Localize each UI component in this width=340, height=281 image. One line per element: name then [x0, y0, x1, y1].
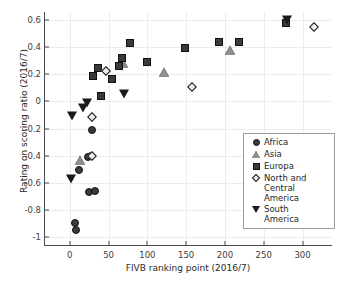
gridline-vertical — [70, 12, 71, 245]
legend-marker-square-icon — [248, 161, 264, 170]
data-point-circle — [91, 187, 99, 195]
y-tick-label: 0.4 — [27, 42, 45, 52]
data-point-diamond — [87, 112, 97, 122]
legend-item-label: North and Central America — [264, 173, 306, 203]
legend-item[interactable]: Asia — [248, 149, 331, 160]
gridline-horizontal — [45, 237, 332, 238]
gridline-horizontal — [45, 20, 332, 21]
data-point-diamond — [309, 22, 319, 32]
data-point-square — [115, 62, 123, 70]
data-point-square — [94, 64, 102, 72]
data-point-circle — [72, 226, 80, 234]
y-tick-mark — [45, 182, 49, 183]
data-point-triangle-up — [118, 59, 128, 68]
legend-marker-diamond-icon — [248, 173, 264, 181]
data-point-circle — [71, 219, 79, 227]
data-point-square — [235, 38, 243, 46]
legend-marker-circle-icon — [248, 137, 264, 146]
x-tick-label: 150 — [178, 245, 194, 260]
legend-item-label: South America — [264, 204, 299, 224]
scatter-chart-figure: 0.60.40.20-0.2-0.4-0.6-0.8-1050100150200… — [0, 0, 340, 281]
data-point-triangle-down — [119, 89, 129, 98]
data-point-triangle-down — [67, 111, 77, 120]
y-tick-mark — [45, 47, 49, 48]
y-tick-label: 0.2 — [27, 69, 45, 79]
y-tick-label: -1 — [33, 232, 45, 242]
data-point-triangle-down — [82, 99, 92, 108]
data-point-circle — [88, 126, 96, 134]
x-axis-label: FIVB ranking point (2016/7) — [44, 263, 332, 273]
data-point-triangle-down — [78, 103, 88, 112]
data-point-circle — [75, 166, 83, 174]
data-point-circle — [84, 153, 92, 161]
y-tick-label: 0.6 — [27, 15, 45, 25]
legend-item-label: Africa — [264, 137, 288, 147]
y-tick-mark — [45, 236, 49, 237]
x-tick-label: 200 — [217, 245, 233, 260]
gridline-horizontal — [45, 74, 332, 75]
x-tick-label: 0 — [67, 245, 72, 260]
x-tick-label: 250 — [256, 245, 272, 260]
y-tick-mark — [45, 20, 49, 21]
x-tick-label: 100 — [139, 245, 155, 260]
data-point-square — [97, 92, 105, 100]
data-point-square — [118, 54, 126, 62]
y-axis-label: Rating on scoring ratio (2016/7) — [19, 11, 29, 231]
data-point-circle — [85, 188, 93, 196]
gridline-vertical — [147, 12, 148, 245]
y-tick-mark — [45, 155, 49, 156]
chart-legend: AfricaAsiaEuropaNorth and Central Americ… — [243, 133, 335, 229]
x-tick-label: 300 — [294, 245, 310, 260]
gridline-horizontal — [45, 129, 332, 130]
data-point-triangle-up — [159, 68, 169, 77]
y-tick-mark — [45, 128, 49, 129]
legend-item[interactable]: South America — [248, 204, 331, 224]
data-point-diamond — [187, 82, 197, 92]
legend-item-label: Asia — [264, 149, 282, 159]
data-point-square — [126, 39, 134, 47]
gridline-vertical — [109, 12, 110, 245]
legend-item-label: Europa — [264, 161, 294, 171]
data-point-square — [89, 72, 97, 80]
y-tick-mark — [45, 74, 49, 75]
x-tick-label: 50 — [103, 245, 114, 260]
y-tick-label: 0 — [36, 96, 45, 106]
legend-marker-triangle-up-icon — [248, 149, 264, 158]
legend-item[interactable]: Africa — [248, 137, 331, 148]
gridline-horizontal — [45, 101, 332, 102]
y-tick-mark — [45, 209, 49, 210]
legend-item[interactable]: Europa — [248, 161, 331, 172]
gridline-vertical — [225, 12, 226, 245]
legend-item[interactable]: North and Central America — [248, 173, 331, 203]
gridline-vertical — [186, 12, 187, 245]
y-tick-mark — [45, 101, 49, 102]
data-point-square — [215, 38, 223, 46]
gridline-horizontal — [45, 47, 332, 48]
legend-marker-triangle-down-icon — [248, 204, 264, 213]
